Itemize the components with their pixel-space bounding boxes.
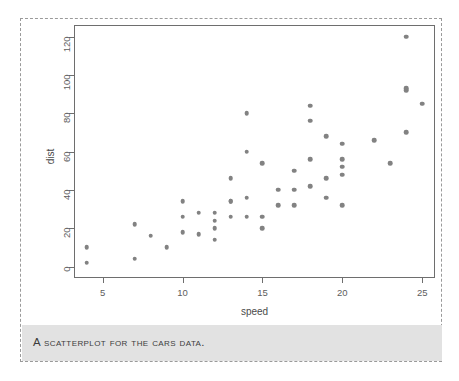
data-point (132, 222, 137, 227)
figure-caption-band: A scatterplot for the cars data. (22, 325, 442, 361)
data-point (212, 237, 217, 242)
y-tick-label: 80 (61, 113, 72, 135)
data-point (84, 245, 89, 250)
data-point (292, 168, 297, 173)
data-point (340, 142, 345, 147)
data-point (276, 188, 281, 193)
x-tick-label: 15 (257, 287, 268, 298)
x-tick-mark (103, 278, 104, 283)
data-point (292, 203, 297, 208)
x-tick-label: 10 (177, 287, 188, 298)
data-point (132, 257, 137, 262)
data-point (260, 226, 265, 231)
figure-caption-text: A scatterplot for the cars data. (33, 336, 205, 348)
data-point (180, 230, 185, 235)
data-point (228, 214, 233, 219)
data-point (340, 203, 345, 208)
data-point (308, 103, 313, 108)
figure-frame: 510152025 020406080100120 speed dist A s… (20, 18, 442, 362)
scatter-plot: 510152025 020406080100120 speed dist (21, 19, 443, 319)
data-point (308, 184, 313, 189)
data-point (244, 195, 249, 200)
data-point (84, 260, 89, 265)
data-point (244, 149, 249, 154)
data-point (340, 172, 345, 177)
data-point (244, 111, 249, 116)
data-point (340, 165, 345, 170)
data-point (212, 211, 217, 216)
y-tick-label: 40 (61, 189, 72, 211)
data-point (324, 176, 329, 181)
plot-axes-box (74, 25, 435, 278)
data-point (340, 157, 345, 162)
data-point (308, 157, 313, 162)
data-point (324, 195, 329, 200)
data-point (276, 203, 281, 208)
y-tick-label: 60 (61, 151, 72, 173)
data-point (212, 218, 217, 223)
data-point (324, 134, 329, 139)
y-tick-label: 100 (61, 74, 72, 96)
y-tick-label: 20 (61, 228, 72, 250)
x-tick-mark (422, 278, 423, 283)
data-point (404, 34, 409, 39)
data-point (228, 199, 233, 204)
data-point (180, 199, 185, 204)
data-point (260, 161, 265, 166)
x-tick-mark (262, 278, 263, 283)
data-point (420, 101, 425, 106)
x-tick-label: 5 (100, 287, 105, 298)
data-point (212, 226, 217, 231)
data-point (292, 188, 297, 193)
x-tick-label: 20 (337, 287, 348, 298)
data-point (148, 234, 153, 239)
data-point (260, 214, 265, 219)
y-tick-label: 120 (61, 36, 72, 58)
x-tick-label: 25 (417, 287, 428, 298)
data-point (228, 176, 233, 181)
data-point (404, 86, 409, 91)
data-point (196, 232, 201, 237)
data-point (308, 119, 313, 124)
x-axis-label: speed (74, 306, 435, 317)
data-point (388, 161, 393, 166)
y-tick-label: 0 (61, 266, 72, 288)
y-axis-label: dist (45, 149, 56, 165)
x-tick-mark (342, 278, 343, 283)
data-point (196, 211, 201, 216)
data-point (164, 245, 169, 250)
x-tick-mark (183, 278, 184, 283)
data-point (372, 138, 377, 143)
data-point (404, 130, 409, 135)
data-point (244, 214, 249, 219)
data-point (180, 214, 185, 219)
